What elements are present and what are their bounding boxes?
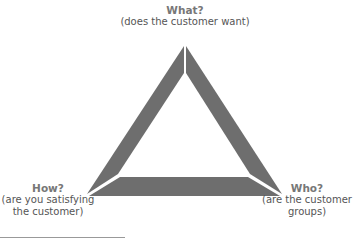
node-how: How? (are you satisfying the customer) — [0, 182, 96, 218]
node-what: What? (does the customer want) — [110, 4, 260, 28]
node-how-line2: the customer) — [0, 206, 96, 218]
node-who-title: Who? — [258, 182, 356, 194]
node-who-line1: (are the customer — [258, 194, 356, 206]
triangle-side-bottom — [89, 177, 280, 196]
node-what-subtitle: (does the customer want) — [110, 16, 260, 28]
node-who-line2: groups) — [258, 206, 356, 218]
footnote-divider — [0, 237, 125, 238]
node-what-title: What? — [110, 4, 260, 16]
node-how-line1: (are you satisfying — [0, 194, 96, 206]
node-how-title: How? — [0, 182, 96, 194]
node-who: Who? (are the customer groups) — [258, 182, 356, 218]
triangle-side-left — [87, 46, 184, 194]
triangle-side-right — [186, 46, 282, 194]
